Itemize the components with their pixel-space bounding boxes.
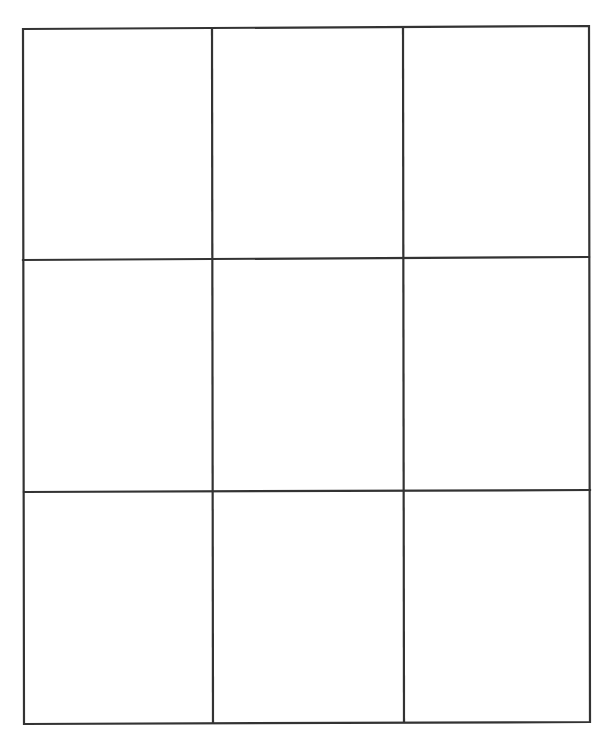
empty-3x3-grid	[0, 0, 616, 742]
grid-cell-r1-c3	[405, 29, 588, 256]
grid-cells	[25, 29, 588, 722]
grid-column-divider-1	[212, 28, 213, 723]
grid-cell-r2-c2	[214, 261, 402, 489]
grid-column-divider-2	[403, 27, 404, 722]
grid-cell-r2-c3	[405, 260, 588, 488]
grid-cell-r2-c1	[25, 262, 211, 490]
grid-outer-border	[23, 26, 590, 724]
grid-cell-r3-c1	[25, 494, 211, 722]
grid-cell-r1-c2	[214, 30, 402, 257]
grid-row-divider-2	[24, 490, 590, 492]
grid-cell-r1-c1	[25, 31, 211, 258]
grid-row-divider-1	[23, 257, 589, 260]
grid-cell-r3-c2	[214, 493, 402, 721]
grid-cell-r3-c3	[405, 492, 588, 720]
